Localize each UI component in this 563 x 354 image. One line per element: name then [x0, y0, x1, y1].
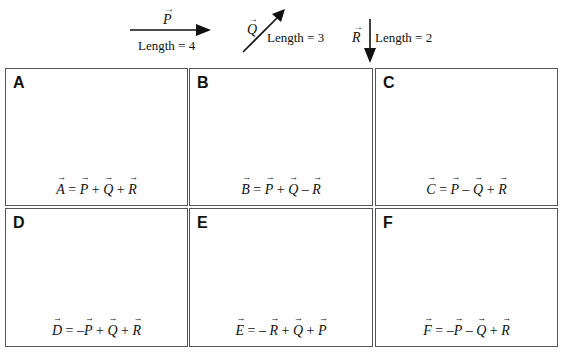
box-d[interactable]: D D = –P + Q + R: [5, 208, 188, 347]
vector-q-length: Length = 3: [267, 30, 324, 46]
vector-r-label: →R: [352, 30, 361, 46]
box-letter: E: [197, 214, 208, 232]
box-letter: C: [383, 74, 395, 92]
equation: E = – R + Q + P: [190, 323, 372, 339]
vector-p-length: Length = 4: [138, 38, 195, 54]
equation: B = P + Q – R: [190, 182, 372, 198]
box-letter: F: [383, 214, 393, 232]
vector-q-label: →Q: [247, 22, 257, 38]
box-e[interactable]: E E = – R + Q + P: [189, 208, 373, 347]
equation: C = P – Q + R: [376, 182, 557, 198]
box-letter: B: [197, 74, 209, 92]
vector-p-label: →P: [163, 12, 172, 28]
equation: D = –P + Q + R: [6, 323, 187, 339]
box-a[interactable]: A A = P + Q + R: [5, 68, 188, 206]
box-b[interactable]: B B = P + Q – R: [189, 68, 373, 206]
vector-r-length: Length = 2: [375, 30, 432, 46]
equation: F = –P – Q + R: [376, 323, 557, 339]
equation: A = P + Q + R: [6, 182, 187, 198]
box-letter: A: [13, 74, 25, 92]
box-letter: D: [13, 214, 25, 232]
box-c[interactable]: C C = P – Q + R: [375, 68, 558, 206]
box-f[interactable]: F F = –P – Q + R: [375, 208, 558, 347]
